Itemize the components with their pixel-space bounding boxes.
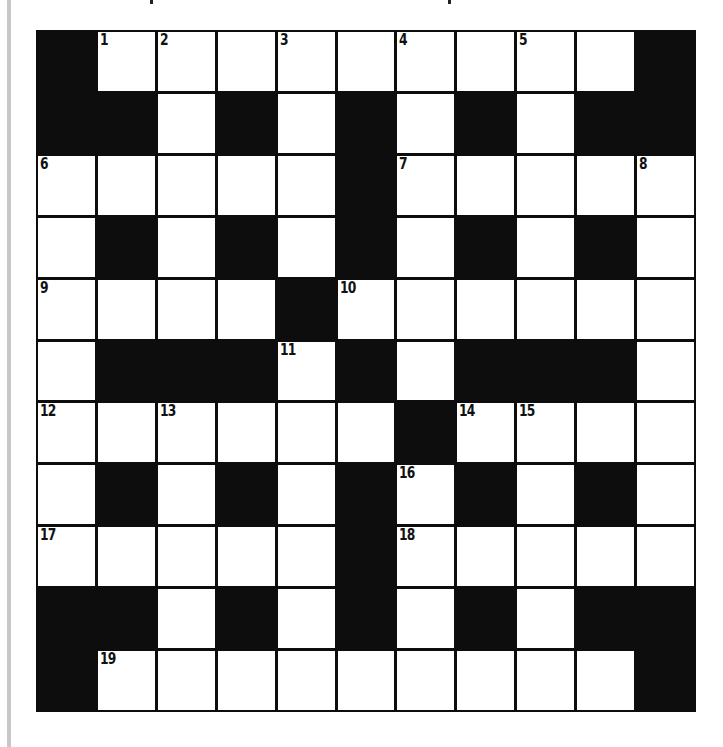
- black-square: [577, 342, 634, 401]
- answer-cell[interactable]: [158, 156, 215, 215]
- answer-cell[interactable]: [517, 280, 574, 339]
- answer-cell[interactable]: 16: [397, 465, 454, 524]
- black-square: [338, 465, 395, 524]
- answer-cell[interactable]: [158, 589, 215, 648]
- answer-cell[interactable]: 18: [397, 527, 454, 586]
- answer-cell[interactable]: [278, 218, 335, 277]
- answer-cell[interactable]: [278, 156, 335, 215]
- clue-number: 13: [160, 404, 175, 419]
- answer-cell[interactable]: [517, 651, 574, 710]
- answer-cell[interactable]: [158, 465, 215, 524]
- answer-cell[interactable]: 4: [397, 32, 454, 91]
- answer-cell[interactable]: [218, 280, 275, 339]
- clue-number: 11: [280, 343, 295, 358]
- answer-cell[interactable]: [338, 32, 395, 91]
- answer-cell[interactable]: [278, 589, 335, 648]
- answer-cell[interactable]: [218, 527, 275, 586]
- answer-cell[interactable]: [637, 465, 694, 524]
- answer-cell[interactable]: [38, 465, 95, 524]
- answer-cell[interactable]: [158, 94, 215, 153]
- answer-cell[interactable]: 8: [637, 156, 694, 215]
- answer-cell[interactable]: [218, 32, 275, 91]
- answer-cell[interactable]: [98, 156, 155, 215]
- answer-cell[interactable]: [457, 651, 514, 710]
- clue-number: 7: [399, 157, 407, 172]
- answer-cell[interactable]: 11: [278, 342, 335, 401]
- answer-cell[interactable]: [457, 32, 514, 91]
- answer-cell[interactable]: [338, 651, 395, 710]
- answer-cell[interactable]: [577, 403, 634, 462]
- answer-cell[interactable]: [457, 156, 514, 215]
- answer-cell[interactable]: 2: [158, 32, 215, 91]
- answer-cell[interactable]: [38, 342, 95, 401]
- answer-cell[interactable]: 17: [38, 527, 95, 586]
- black-square: [338, 589, 395, 648]
- black-square: [517, 342, 574, 401]
- answer-cell[interactable]: [278, 527, 335, 586]
- answer-cell[interactable]: [338, 403, 395, 462]
- answer-cell[interactable]: [158, 218, 215, 277]
- answer-cell[interactable]: [98, 403, 155, 462]
- answer-cell[interactable]: [278, 403, 335, 462]
- crossword-grid: 12345678910111213141516171819: [36, 30, 696, 712]
- answer-cell[interactable]: [637, 403, 694, 462]
- answer-cell[interactable]: [577, 156, 634, 215]
- answer-cell[interactable]: [517, 589, 574, 648]
- clue-number: 1: [100, 33, 108, 48]
- answer-cell[interactable]: [158, 280, 215, 339]
- black-square: [577, 218, 634, 277]
- answer-cell[interactable]: 19: [98, 651, 155, 710]
- answer-cell[interactable]: [278, 94, 335, 153]
- answer-cell[interactable]: 7: [397, 156, 454, 215]
- answer-cell[interactable]: [517, 218, 574, 277]
- answer-cell[interactable]: [517, 156, 574, 215]
- answer-cell[interactable]: [218, 403, 275, 462]
- black-square: [577, 465, 634, 524]
- clue-number: 6: [40, 157, 48, 172]
- answer-cell[interactable]: [637, 527, 694, 586]
- answer-cell[interactable]: [577, 32, 634, 91]
- answer-cell[interactable]: [637, 342, 694, 401]
- answer-cell[interactable]: 6: [38, 156, 95, 215]
- answer-cell[interactable]: [457, 527, 514, 586]
- answer-cell[interactable]: [457, 280, 514, 339]
- answer-cell[interactable]: [98, 280, 155, 339]
- answer-cell[interactable]: [637, 218, 694, 277]
- answer-cell[interactable]: [577, 651, 634, 710]
- answer-cell[interactable]: [278, 465, 335, 524]
- answer-cell[interactable]: [397, 589, 454, 648]
- answer-cell[interactable]: 10: [338, 280, 395, 339]
- answer-cell[interactable]: [397, 280, 454, 339]
- answer-cell[interactable]: 5: [517, 32, 574, 91]
- answer-cell[interactable]: [577, 527, 634, 586]
- answer-cell[interactable]: [98, 527, 155, 586]
- answer-cell[interactable]: 13: [158, 403, 215, 462]
- answer-cell[interactable]: [517, 465, 574, 524]
- answer-cell[interactable]: 9: [38, 280, 95, 339]
- black-square: [98, 218, 155, 277]
- answer-cell[interactable]: [397, 218, 454, 277]
- answer-cell[interactable]: [517, 94, 574, 153]
- black-square: [637, 32, 694, 91]
- black-square: [637, 589, 694, 648]
- answer-cell[interactable]: [158, 651, 215, 710]
- answer-cell[interactable]: [218, 651, 275, 710]
- answer-cell[interactable]: 12: [38, 403, 95, 462]
- answer-cell[interactable]: [577, 280, 634, 339]
- clue-number: 5: [519, 33, 527, 48]
- answer-cell[interactable]: [38, 218, 95, 277]
- answer-cell[interactable]: [637, 280, 694, 339]
- answer-cell[interactable]: [517, 527, 574, 586]
- answer-cell[interactable]: 15: [517, 403, 574, 462]
- answer-cell[interactable]: [278, 651, 335, 710]
- black-square: [637, 94, 694, 153]
- answer-cell[interactable]: [397, 651, 454, 710]
- answer-cell[interactable]: [397, 94, 454, 153]
- answer-cell[interactable]: [397, 342, 454, 401]
- answer-cell[interactable]: 14: [457, 403, 514, 462]
- answer-cell[interactable]: 1: [98, 32, 155, 91]
- black-square: [218, 589, 275, 648]
- answer-cell[interactable]: 3: [278, 32, 335, 91]
- answer-cell[interactable]: [158, 527, 215, 586]
- answer-cell[interactable]: [218, 156, 275, 215]
